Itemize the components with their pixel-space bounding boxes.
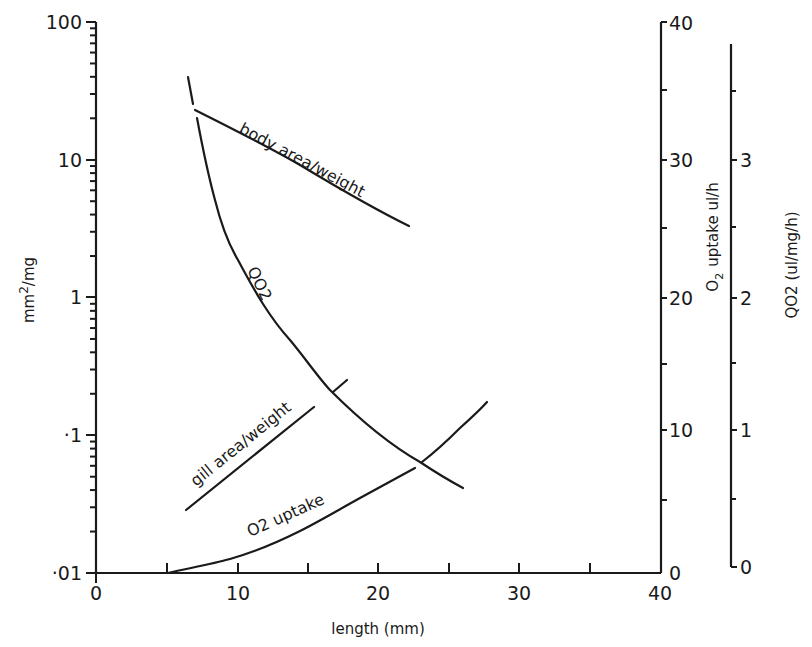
right2-tick-2: 2: [740, 287, 752, 309]
x-axis-title: length (mm): [331, 620, 425, 638]
series-gill-area-weight: gill area/weight: [186, 380, 347, 510]
right1-tick-20: 20: [669, 287, 693, 309]
series-body-area-weight: body area/weight: [195, 110, 409, 226]
right1-tick-30: 30: [669, 149, 693, 171]
right1-tick-0: 0: [669, 562, 681, 584]
x-tick-40: 40: [648, 582, 672, 604]
left-tick-10: 10: [58, 149, 82, 171]
series-o2-uptake: O2 uptake: [168, 402, 487, 573]
label-o2-uptake: O2 uptake: [244, 490, 327, 541]
x-tick-10: 10: [226, 582, 250, 604]
left-axis-title: mm2/mg: [17, 257, 38, 323]
left-tick-0.01: ·01: [52, 562, 82, 584]
left-tick-100: 100: [46, 11, 82, 33]
x-tick-30: 30: [507, 582, 531, 604]
left-tick-1: 1: [70, 286, 82, 308]
series-qo2: QO2: [188, 77, 463, 488]
right2-tick-0: 0: [740, 556, 752, 578]
right2-tick-3: 3: [740, 149, 752, 171]
chart-figure: 100 10 1 ·1 ·01 mm2/mg 0 10 20 30 40 len…: [0, 0, 812, 647]
x-tick-0: 0: [90, 582, 102, 604]
left-tick-0.1: ·1: [64, 424, 82, 446]
left-y-axis: 100 10 1 ·1 ·01 mm2/mg: [17, 11, 96, 584]
label-body-area: body area/weight: [236, 119, 368, 201]
right1-tick-10: 10: [669, 419, 693, 441]
right1-tick-40: 40: [669, 12, 693, 34]
right2-tick-1: 1: [740, 419, 752, 441]
right-y-axis-o2-uptake: 40 30 20 10 0 O2uptake ul/h: [661, 12, 726, 584]
label-gill-area: gill area/weight: [187, 398, 295, 491]
x-axis: 0 10 20 30 40 length (mm): [90, 563, 672, 638]
right-y-axis-qo2: 0 1 2 3 QO2 (ul/mg/h): [731, 44, 801, 578]
right2-axis-title: QO2 (ul/mg/h): [783, 211, 801, 318]
x-tick-20: 20: [366, 582, 390, 604]
label-qo2: QO2: [243, 263, 276, 303]
right1-axis-title: O2uptake ul/h: [704, 182, 726, 291]
